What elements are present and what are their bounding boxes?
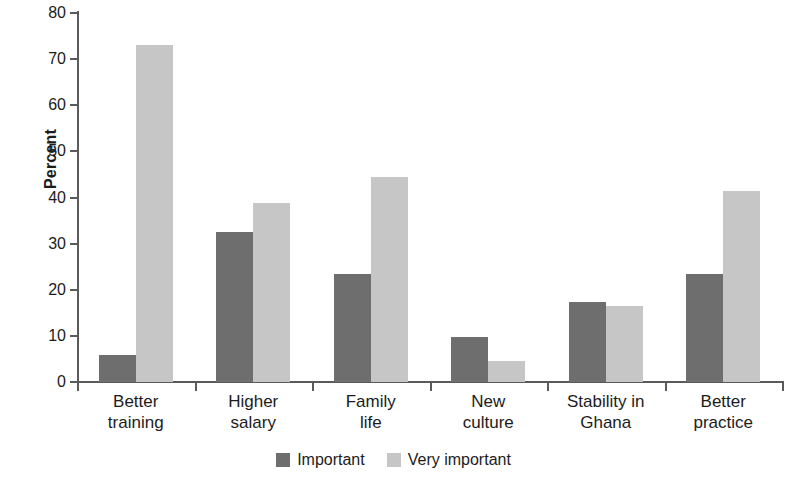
- x-axis-category-label: Newculture: [430, 391, 548, 433]
- legend-label: Very important: [408, 452, 511, 468]
- bar-very-important[interactable]: [136, 45, 173, 382]
- bar-chart: Percent 01020304050607080 Bettertraining…: [0, 0, 787, 486]
- bar-very-important[interactable]: [723, 191, 760, 382]
- bar-important[interactable]: [686, 274, 723, 382]
- bar-important[interactable]: [99, 355, 136, 382]
- bar-group: [547, 13, 665, 382]
- y-axis-tick-mark: [70, 335, 77, 337]
- x-axis-category-label-line: Higher: [199, 391, 309, 412]
- y-axis-tick-label: 30: [6, 236, 77, 252]
- x-axis-category-label-line: culture: [434, 412, 544, 433]
- x-axis-category-label-line: Stability in: [551, 391, 661, 412]
- bar-important[interactable]: [216, 232, 253, 382]
- x-axis-tick-mark: [547, 381, 549, 391]
- y-axis-tick-mark: [70, 197, 77, 199]
- x-axis-category-label-line: training: [81, 412, 191, 433]
- x-axis-category-label-line: New: [434, 391, 544, 412]
- x-axis-category-label: Familylife: [312, 391, 430, 433]
- x-axis-category-label-line: Better: [669, 391, 779, 412]
- x-axis-tick-mark: [782, 381, 784, 391]
- y-axis-tick-mark: [70, 289, 77, 291]
- x-axis-category-label: Stability inGhana: [547, 391, 665, 433]
- bar-very-important[interactable]: [606, 306, 643, 382]
- x-axis-category-label-line: Better: [81, 391, 191, 412]
- chart-legend: ImportantVery important: [0, 452, 787, 468]
- y-axis-tick-mark: [70, 381, 77, 383]
- y-axis-tick-label: 80: [6, 5, 77, 21]
- plot-area: 01020304050607080: [77, 13, 782, 382]
- bar-very-important[interactable]: [371, 177, 408, 382]
- bar-important[interactable]: [569, 302, 606, 382]
- y-axis-tick-label: 70: [6, 51, 77, 67]
- x-axis-tick-mark: [430, 381, 432, 391]
- x-axis-category-label: Highersalary: [195, 391, 313, 433]
- y-axis-tick-label: 40: [6, 190, 77, 206]
- y-axis-tick-label: 20: [6, 282, 77, 298]
- x-axis-category-label-line: life: [316, 412, 426, 433]
- y-axis-tick-mark: [70, 243, 77, 245]
- x-axis-category-label: Betterpractice: [665, 391, 783, 433]
- x-axis-tick-mark: [77, 381, 79, 391]
- y-axis-tick-mark: [70, 58, 77, 60]
- x-axis-labels: BettertrainingHighersalaryFamilylifeNewc…: [77, 391, 782, 433]
- x-axis-category-label-line: salary: [199, 412, 309, 433]
- y-axis-tick-label: 50: [6, 143, 77, 159]
- bar-important[interactable]: [334, 274, 371, 382]
- legend-item[interactable]: Very important: [387, 452, 511, 468]
- bar-important[interactable]: [451, 337, 488, 382]
- y-axis-tick-label: 0: [6, 374, 77, 390]
- y-axis-tick-label: 10: [6, 328, 77, 344]
- legend-swatch-icon: [387, 453, 401, 467]
- legend-label: Important: [297, 452, 365, 468]
- bar-very-important[interactable]: [253, 203, 290, 382]
- bar-groups: [77, 13, 782, 382]
- x-axis-category-label-line: Ghana: [551, 412, 661, 433]
- x-axis-tick-mark: [665, 381, 667, 391]
- bar-very-important[interactable]: [488, 361, 525, 382]
- bar-group: [430, 13, 548, 382]
- x-axis-category-label-line: practice: [669, 412, 779, 433]
- bar-group: [665, 13, 783, 382]
- legend-swatch-icon: [276, 453, 290, 467]
- y-axis-tick-mark: [70, 12, 77, 14]
- y-axis-tick-mark: [70, 104, 77, 106]
- bar-group: [195, 13, 313, 382]
- y-axis-tick-mark: [70, 150, 77, 152]
- legend-item[interactable]: Important: [276, 452, 365, 468]
- bar-group: [77, 13, 195, 382]
- x-axis-category-label-line: Family: [316, 391, 426, 412]
- y-axis-tick-label: 60: [6, 97, 77, 113]
- x-axis-category-label: Bettertraining: [77, 391, 195, 433]
- x-axis-tick-mark: [195, 381, 197, 391]
- x-axis-tick-mark: [312, 381, 314, 391]
- bar-group: [312, 13, 430, 382]
